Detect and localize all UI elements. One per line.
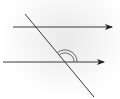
parallel-lines-diagram [0, 0, 120, 99]
diagram-canvas [0, 0, 120, 99]
transversal-line [25, 14, 94, 97]
